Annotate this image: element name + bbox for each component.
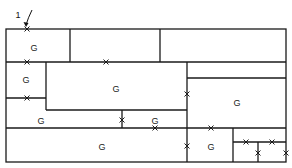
room-labels: GGGGGGGG xyxy=(22,43,240,152)
doors xyxy=(25,27,289,156)
room-label: G xyxy=(98,142,105,152)
start-marker-label: 1 xyxy=(15,10,20,20)
arrowhead-icon xyxy=(24,22,29,27)
room-label: G xyxy=(37,116,44,126)
room-label: G xyxy=(207,142,214,152)
start-marker: 1 xyxy=(15,10,32,27)
floor-plan-diagram: GGGGGGGG 1 xyxy=(0,0,292,168)
room-label: G xyxy=(22,75,29,85)
room-label: G xyxy=(233,98,240,108)
room-label: G xyxy=(112,84,119,94)
room-label: G xyxy=(151,116,158,126)
room-label: G xyxy=(30,43,37,53)
walls xyxy=(6,29,286,162)
